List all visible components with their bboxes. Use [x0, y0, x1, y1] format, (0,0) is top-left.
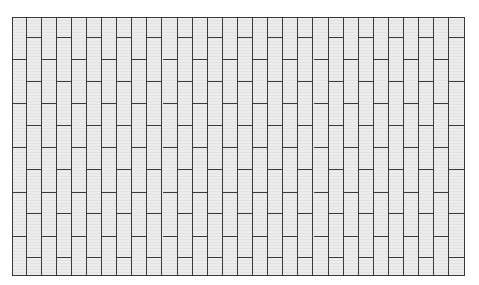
brick-joint: [27, 213, 41, 214]
brick-joint: [193, 147, 207, 148]
brick-joint: [449, 37, 464, 38]
brick-joint: [208, 213, 222, 214]
brick-joint: [359, 213, 373, 214]
brick-joint: [12, 236, 26, 237]
clipped-caption-text: [0, 0, 479, 5]
brick-joint: [344, 103, 358, 104]
brick-joint: [223, 59, 237, 60]
brick-column: [238, 18, 253, 275]
brick-joint: [163, 236, 177, 237]
brick-joint: [449, 125, 464, 126]
brick-joint: [419, 37, 433, 38]
brick-joint: [102, 192, 116, 193]
brick-joint: [102, 103, 116, 104]
brick-joint: [449, 257, 464, 258]
brick-bond-pattern: [12, 17, 465, 276]
brick-joint: [359, 125, 373, 126]
brick-joint: [374, 236, 388, 237]
brick-joint: [163, 59, 177, 60]
brick-joint: [298, 37, 312, 38]
brick-joint: [238, 169, 252, 170]
brick-joint: [434, 103, 448, 104]
brick-column: [117, 18, 132, 275]
brick-joint: [42, 147, 56, 148]
brick-joint: [163, 192, 177, 193]
brick-joint: [208, 169, 222, 170]
brick-joint: [283, 103, 297, 104]
brick-joint: [238, 37, 252, 38]
brick-joint: [178, 125, 192, 126]
brick-joint: [87, 257, 101, 258]
brick-column: [57, 18, 72, 275]
brick-joint: [344, 236, 358, 237]
brick-column: [178, 18, 193, 275]
brick-joint: [57, 125, 71, 126]
brick-joint: [404, 103, 418, 104]
brick-joint: [223, 192, 237, 193]
brick-joint: [268, 169, 282, 170]
brick-joint: [72, 103, 86, 104]
brick-joint: [314, 192, 328, 193]
brick-joint: [419, 81, 433, 82]
brick-joint: [298, 257, 312, 258]
brick-joint: [359, 257, 373, 258]
brick-column: [12, 18, 27, 275]
brick-joint: [117, 37, 131, 38]
brick-joint: [117, 257, 131, 258]
brick-joint: [193, 103, 207, 104]
brick-joint: [147, 81, 161, 82]
brick-column: [449, 18, 464, 275]
brick-joint: [42, 59, 56, 60]
brick-joint: [87, 125, 101, 126]
brick-joint: [117, 125, 131, 126]
brick-joint: [374, 147, 388, 148]
brick-joint: [344, 147, 358, 148]
brick-joint: [268, 125, 282, 126]
brick-joint: [12, 147, 26, 148]
brick-joint: [238, 213, 252, 214]
brick-joint: [132, 59, 146, 60]
brick-joint: [72, 59, 86, 60]
brick-joint: [132, 236, 146, 237]
brick-joint: [208, 257, 222, 258]
brick-joint: [208, 125, 222, 126]
brick-joint: [178, 257, 192, 258]
brick-joint: [208, 81, 222, 82]
brick-joint: [449, 169, 464, 170]
brick-joint: [87, 213, 101, 214]
brick-joint: [329, 125, 343, 126]
brick-column: [223, 18, 238, 275]
brick-joint: [117, 81, 131, 82]
brick-joint: [389, 81, 403, 82]
brick-joint: [283, 59, 297, 60]
brick-joint: [434, 192, 448, 193]
brick-joint: [298, 169, 312, 170]
brick-joint: [314, 147, 328, 148]
brick-joint: [449, 81, 464, 82]
brick-joint: [359, 169, 373, 170]
brick-column: [87, 18, 102, 275]
brick-joint: [389, 257, 403, 258]
brick-joint: [57, 81, 71, 82]
brick-joint: [72, 236, 86, 237]
brick-column: [389, 18, 404, 275]
brick-column: [253, 18, 268, 275]
brick-column: [72, 18, 87, 275]
brick-joint: [268, 257, 282, 258]
brick-joint: [329, 81, 343, 82]
brick-joint: [193, 192, 207, 193]
brick-joint: [27, 169, 41, 170]
brick-joint: [147, 125, 161, 126]
brick-column: [42, 18, 57, 275]
brick-joint: [147, 37, 161, 38]
brick-joint: [132, 192, 146, 193]
brick-column: [193, 18, 208, 275]
brick-joint: [434, 147, 448, 148]
brick-column: [268, 18, 283, 275]
brick-joint: [268, 213, 282, 214]
brick-joint: [178, 213, 192, 214]
brick-column: [419, 18, 434, 275]
brick-joint: [389, 213, 403, 214]
brick-joint: [298, 213, 312, 214]
brick-joint: [404, 59, 418, 60]
